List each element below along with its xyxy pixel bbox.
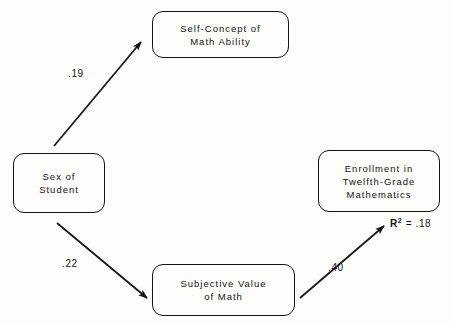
edge-coefficient-sex-to-subjective-value: .22 — [62, 258, 78, 269]
node-label-line: Sex of — [43, 170, 76, 183]
node-label-line: Twelfth-Grade — [343, 175, 416, 188]
r-squared-relation: = — [402, 218, 415, 229]
path-diagram-canvas: Self-Concept of Math Ability Sex of Stud… — [0, 0, 452, 325]
node-label-line: Enrollment in — [345, 162, 413, 175]
edge-coefficient-sex-to-self-concept: .19 — [68, 68, 84, 79]
node-label-line: of Math — [204, 290, 243, 303]
node-label-line: Math Ability — [190, 35, 251, 48]
node-subjective-value-of-math: Subjective Value of Math — [152, 264, 295, 316]
node-label-line: Self-Concept of — [180, 22, 260, 35]
node-enrollment-in-twelfth-grade-mathematics: Enrollment in Twelfth-Grade Mathematics — [318, 150, 440, 212]
arrow-sex-to-self-concept — [54, 42, 141, 146]
node-label-line: Subjective Value — [180, 277, 266, 290]
node-sex-of-student: Sex of Student — [13, 153, 105, 213]
r-squared-symbol: R — [390, 218, 398, 229]
edge-coefficient-subjective-value-to-enrollment: .40 — [328, 262, 344, 273]
r-squared-value: .18 — [416, 218, 432, 229]
r-squared-annotation: R2 = .18 — [390, 217, 431, 229]
node-label-line: Mathematics — [347, 188, 412, 201]
node-self-concept-of-math-ability: Self-Concept of Math Ability — [152, 11, 289, 58]
node-label-line: Student — [39, 183, 79, 196]
